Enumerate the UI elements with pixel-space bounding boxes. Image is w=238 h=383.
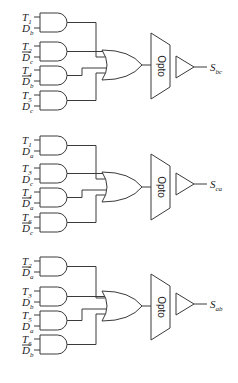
output-label: Sbc xyxy=(210,61,223,76)
wire xyxy=(67,314,106,345)
and-gate: T3Db xyxy=(21,285,108,311)
opto-label: Opto xyxy=(156,176,167,198)
and-gate-icon xyxy=(40,91,67,110)
wire xyxy=(67,68,106,76)
and-gate: T4Da xyxy=(21,186,106,212)
input-label: Db xyxy=(21,22,34,37)
input-label: Da xyxy=(21,197,34,212)
and-gate-icon xyxy=(40,164,67,183)
or-gate-icon xyxy=(102,172,142,202)
input-label: Db xyxy=(21,344,34,359)
wire xyxy=(67,297,108,304)
output-label: Sca xyxy=(210,178,223,193)
wire xyxy=(67,190,106,198)
and-gate-icon xyxy=(40,287,67,306)
and-gate-icon xyxy=(40,188,67,207)
input-label: Db xyxy=(21,75,34,90)
circuit-block-bc: T1DbT2DcT4DbT5DcOptoSbc xyxy=(21,11,223,115)
logic-diagram: T1DbT2DcT4DbT5DcOptoSbcT1DaT3DcT4DaT6DcO… xyxy=(0,0,238,383)
and-gate: T3Dc xyxy=(21,162,108,188)
wire xyxy=(67,73,106,101)
buffer-amplifier-icon xyxy=(176,173,194,195)
and-gate-icon xyxy=(40,311,67,330)
and-gate-icon xyxy=(40,335,67,354)
output-label: Sab xyxy=(210,298,223,313)
wire xyxy=(67,309,106,321)
input-label: Dc xyxy=(21,100,34,115)
opto-label: Opto xyxy=(156,55,167,77)
and-gate-icon xyxy=(40,257,67,276)
wire xyxy=(67,195,106,223)
or-gate-icon xyxy=(102,291,142,321)
and-gate-icon xyxy=(40,136,67,155)
wire xyxy=(67,267,106,299)
and-gate: T4Db xyxy=(21,64,106,90)
buffer-amplifier-icon xyxy=(176,293,194,315)
and-gate-icon xyxy=(40,42,67,61)
opto-label: Opto xyxy=(156,296,167,318)
or-gate-icon xyxy=(102,50,142,80)
input-label: Dc xyxy=(21,222,34,237)
and-gate-icon xyxy=(40,213,67,232)
circuit-block-ca: T1DaT3DcT4DaT6DcOptoSca xyxy=(21,134,223,237)
and-gate-icon xyxy=(40,13,67,32)
input-label: Da xyxy=(21,145,34,160)
and-gate-icon xyxy=(40,66,67,85)
buffer-amplifier-icon xyxy=(176,56,194,78)
circuit-block-ab: T2DaT3DbT5DaT6DbOptoSab xyxy=(21,255,223,359)
input-label: Da xyxy=(21,266,34,281)
and-gate: T2Dc xyxy=(21,40,108,66)
and-gate: T5Da xyxy=(21,309,106,335)
